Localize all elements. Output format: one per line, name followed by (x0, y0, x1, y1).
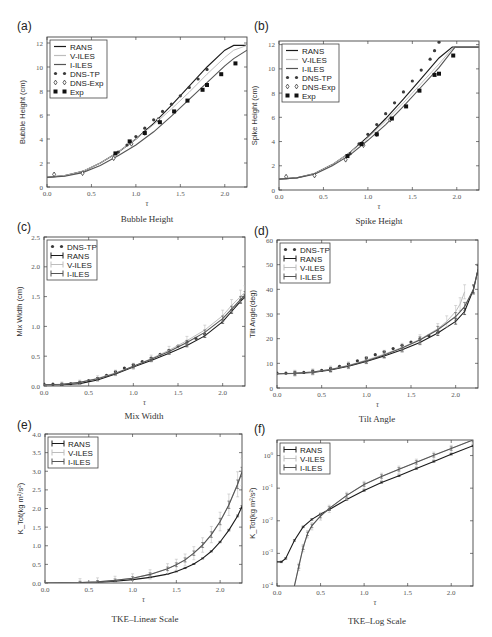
marker-dns-tp (197, 77, 200, 80)
marker-exp (390, 117, 394, 121)
y-tick-label: 2.0 (32, 505, 41, 513)
legend-entry-exp: Exp (302, 92, 316, 101)
x-tick-label: 2.0 (220, 190, 229, 198)
marker-dns-tp (152, 118, 155, 121)
series-line-v-iles (45, 472, 242, 583)
legend-entry-v-iles: V-ILES (70, 52, 95, 61)
x-tick-label: 0.0 (273, 391, 282, 399)
x-tick-label: 2.0 (452, 193, 461, 201)
y-tick-label: 20 (266, 335, 274, 343)
x-tick-label: 2.0 (451, 391, 460, 399)
marker-exp (233, 61, 237, 65)
legend-entry-i-iles: I-ILES (70, 61, 92, 70)
y-tick-label: 1.0 (31, 323, 40, 331)
y-tick-label: 100 (264, 451, 274, 460)
marker-dns-tp (143, 127, 146, 130)
marker-exp (360, 142, 364, 146)
y-tick-label: 3.0 (32, 468, 41, 476)
plot-bubble-height: 0.00.51.01.52.0024681012τBubble Height (… (18, 37, 247, 208)
y-tick-label: 10-3 (262, 548, 274, 557)
x-tick-label: 0.5 (84, 389, 93, 397)
legend-entry-dns-exp: DNS-Exp (302, 83, 336, 92)
x-tick-label: 0.5 (87, 190, 96, 198)
y-tick-label: 0.0 (32, 580, 41, 588)
marker-dns-tp (402, 90, 405, 93)
marker-dns-tp (366, 133, 369, 136)
legend-entry-rans: RANS (70, 43, 92, 52)
legend-entry-v-iles: V-ILES (302, 56, 327, 65)
marker-exp (417, 89, 421, 93)
y-tick-label: 1.5 (32, 524, 41, 532)
y-tick-label: 4 (40, 136, 44, 144)
marker-exp (172, 109, 176, 113)
y-tick-label: 6 (40, 112, 44, 120)
x-tick-label: 1.5 (408, 193, 417, 201)
marker-exp (113, 151, 117, 155)
x-tick-label: 1.5 (176, 190, 185, 198)
marker-dns-tp (437, 41, 440, 44)
y-tick-label: 2 (272, 162, 276, 170)
x-tick-label: 1.5 (403, 589, 412, 597)
legend-entry-rans: RANS (68, 440, 90, 449)
marker-exp (128, 139, 132, 143)
legend-entry-rans: RANS (67, 252, 89, 261)
y-tick-label: 0.5 (31, 353, 40, 361)
legend-entry-v-iles: V-ILES (300, 264, 325, 273)
x-tick-label: 0.0 (273, 589, 282, 597)
marker-exp (219, 72, 223, 76)
x-tick-label: 1.0 (128, 586, 137, 594)
marker-exp (158, 120, 162, 124)
y-tick-label: 10-1 (262, 483, 274, 492)
marker-exp (404, 104, 408, 108)
y-tick-label: 10 (266, 360, 274, 368)
y-tick-label: 10-2 (262, 516, 274, 525)
figure-canvas: 0.00.51.01.52.0024681012τBubble Height (… (0, 0, 492, 637)
legend-entry-v-iles: V-ILES (300, 455, 325, 464)
marker-dns-tp (411, 79, 414, 82)
legend-entry-i-iles: I-ILES (67, 270, 89, 279)
y-tick-label: 6 (272, 114, 276, 122)
marker-dns-tp (429, 58, 432, 61)
plot-tke-log: 0.00.51.01.52.010-410-310-210-1100τK_Tot… (248, 437, 475, 607)
x-axis-label: τ (376, 400, 380, 409)
y-tick-label: 1.0 (32, 542, 41, 550)
marker-dns-tp (161, 110, 164, 113)
y-tick-label: 0 (40, 184, 44, 192)
marker-exp (143, 131, 147, 135)
y-axis-label: K_Tot(kg m²/s²) (16, 482, 25, 534)
x-tick-label: 2.0 (216, 586, 225, 594)
x-tick-label: 0.5 (84, 586, 93, 594)
legend-entry-rans: RANS (300, 255, 322, 264)
legend-entry-dns-tp: DNS-TP (67, 243, 97, 252)
x-tick-label: 1.5 (172, 586, 181, 594)
y-tick-label: 2.5 (32, 486, 41, 494)
y-tick-label: 30 (266, 311, 274, 319)
legend-entry-v-iles: V-ILES (68, 449, 93, 458)
x-tick-label: 1.5 (407, 391, 416, 399)
x-axis-label: τ (143, 398, 147, 407)
y-axis-label: Mix Width (cm) (15, 286, 24, 336)
marker-exp (375, 132, 379, 136)
legend-entry-dns-tp: DNS-TP (70, 70, 100, 79)
x-tick-label: 1.5 (174, 389, 183, 397)
x-tick-label: 2.0 (447, 589, 456, 597)
series-line-rans (44, 297, 245, 385)
marker-exp (345, 154, 349, 158)
y-tick-label: 12 (36, 40, 44, 48)
y-tick-label: 12 (268, 41, 276, 49)
series-line-i-iles (45, 472, 242, 583)
y-tick-label: 0.0 (31, 383, 40, 391)
y-tick-label: 2 (40, 160, 44, 168)
plot-spike-height: 0.00.51.01.52.0024681012τSpike Height (c… (250, 41, 479, 211)
y-tick-label: 2.5 (31, 234, 40, 242)
marker-exp (201, 88, 205, 92)
series-line-v-iles (44, 292, 245, 384)
plot-tke-linear: 0.00.51.01.52.00.00.51.01.52.02.53.03.54… (16, 431, 244, 605)
marker-exp (205, 83, 209, 87)
legend-entry-dns-exp: DNS-Exp (70, 79, 104, 88)
y-tick-label: 3.5 (32, 449, 41, 457)
marker-exp (433, 73, 437, 77)
legend-entry-exp: Exp (70, 88, 84, 97)
x-axis-label: τ (146, 199, 150, 208)
y-tick-label: 40 (266, 286, 274, 294)
